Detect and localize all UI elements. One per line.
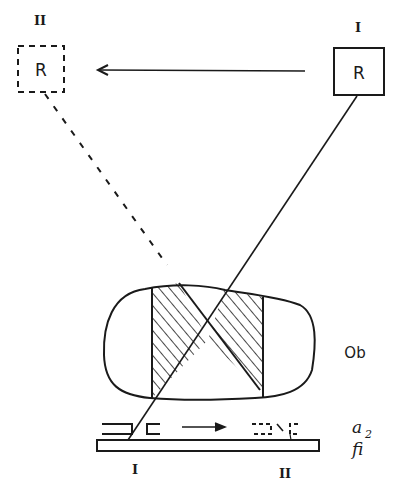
- aperture-position-II: [252, 424, 298, 434]
- film-position-label-I: I: [132, 462, 138, 477]
- aperture-label-main: a: [352, 417, 362, 437]
- movement-arrow-left: [98, 65, 305, 75]
- hatched-region-right: [208, 290, 263, 392]
- film-label: fi: [350, 439, 363, 459]
- aperture-label-subscript: 2: [364, 428, 372, 441]
- aperture-position-I: [102, 424, 160, 434]
- movement-arrow-right: [182, 423, 225, 431]
- solid-ray-I: [128, 96, 357, 440]
- diagram-canvas: II R I R Ob: [0, 0, 396, 492]
- position-label-I: I: [355, 20, 361, 35]
- position-label-II: II: [34, 13, 46, 28]
- object-label: Ob: [344, 344, 365, 362]
- film-strip: [97, 440, 319, 451]
- receiver-box-II: R: [18, 46, 64, 92]
- receiver-box-I: R: [334, 48, 384, 95]
- dashed-ray-II: [45, 94, 167, 265]
- receiver-I-label: R: [353, 63, 365, 83]
- object-outline: [104, 285, 315, 400]
- film-position-label-II: II: [279, 466, 291, 481]
- receiver-II-label: R: [35, 60, 47, 80]
- hatched-region-left: [152, 283, 208, 398]
- aperture-label: a 2: [352, 417, 372, 441]
